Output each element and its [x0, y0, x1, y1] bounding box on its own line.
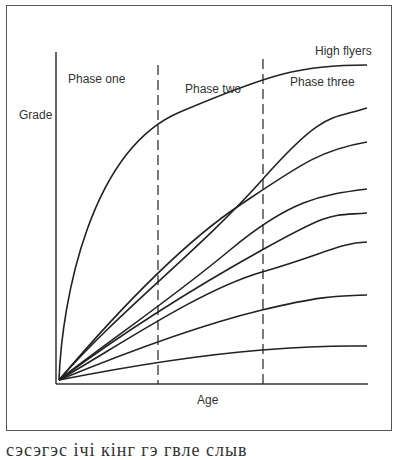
high-flyers-label: High flyers — [315, 44, 372, 58]
curve-7 — [59, 295, 367, 380]
x-axis-label: Age — [197, 393, 218, 407]
phase-one-label: Phase one — [68, 72, 125, 86]
curve-4 — [59, 189, 367, 380]
phase-two-label: Phase two — [185, 82, 241, 96]
curve-2 — [59, 108, 367, 380]
curve-8 — [59, 346, 367, 380]
y-axis-label: Grade — [19, 108, 52, 122]
curve-high-flyers — [59, 65, 367, 380]
curve-6 — [59, 242, 367, 380]
caption-fragment: сэсэгэс ічі кінг гэ гвле слыв — [6, 440, 248, 460]
phase-three-label: Phase three — [290, 75, 355, 89]
